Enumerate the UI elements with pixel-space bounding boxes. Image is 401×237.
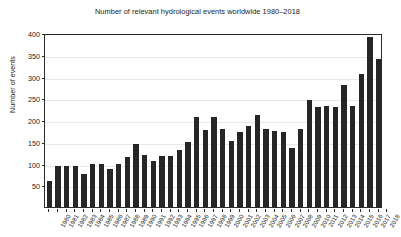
bar: [237, 132, 242, 207]
bar: [55, 166, 60, 207]
x-tick-mark: [369, 209, 370, 212]
bar: [272, 131, 277, 207]
bar: [90, 164, 95, 208]
x-tick-mark: [170, 209, 171, 212]
x-tick-mark: [256, 209, 257, 212]
x-tick-mark: [222, 209, 223, 212]
x-tick-mark: [248, 209, 249, 212]
bar: [350, 106, 355, 207]
bar: [73, 166, 78, 207]
x-tick-mark: [135, 209, 136, 212]
x-tick-mark: [187, 209, 188, 212]
bar: [246, 126, 251, 207]
x-tick-mark: [213, 209, 214, 212]
plot-area: [44, 34, 382, 208]
bar: [168, 156, 173, 207]
x-tick-mark: [100, 209, 101, 212]
x-axis-ticks: 1980198119821983198419851986198719881989…: [44, 209, 382, 237]
y-tick-label: 200: [0, 117, 40, 126]
bar: [47, 181, 52, 207]
x-tick-mark: [83, 209, 84, 212]
bar: [333, 107, 338, 207]
y-tick-label: 100: [0, 160, 40, 169]
y-tick-label: 300: [0, 73, 40, 82]
y-tick-label: 350: [0, 51, 40, 60]
bar: [324, 106, 329, 207]
bar: [220, 129, 225, 207]
bar: [116, 164, 121, 208]
bar: [376, 59, 381, 207]
bar: [211, 117, 216, 207]
x-tick-mark: [161, 209, 162, 212]
bar: [341, 85, 346, 207]
x-tick-mark: [178, 209, 179, 212]
bar: [133, 144, 138, 207]
x-tick-mark: [126, 209, 127, 212]
bar: [151, 161, 156, 207]
x-tick-mark: [308, 209, 309, 212]
bar: [64, 166, 69, 207]
bar: [194, 117, 199, 207]
y-tick-label: 50: [0, 182, 40, 191]
x-tick-mark: [118, 209, 119, 212]
bar: [203, 130, 208, 207]
x-tick-mark: [230, 209, 231, 212]
bar: [298, 129, 303, 207]
x-tick-mark: [239, 209, 240, 212]
chart-title: Number of relevant hydrological events w…: [0, 7, 395, 16]
x-tick-mark: [334, 209, 335, 212]
bar-series: [45, 35, 381, 207]
x-tick-mark: [48, 209, 49, 212]
x-tick-mark: [109, 209, 110, 212]
bar: [255, 115, 260, 207]
bar: [229, 141, 234, 207]
x-tick-mark: [317, 209, 318, 212]
x-tick-mark: [92, 209, 93, 212]
bar: [367, 37, 372, 207]
y-axis-label: Number of events: [8, 45, 17, 125]
x-tick-mark: [360, 209, 361, 212]
y-tick-label: 250: [0, 95, 40, 104]
x-tick-mark: [196, 209, 197, 212]
x-tick-mark: [352, 209, 353, 212]
bar: [107, 169, 112, 207]
x-tick-mark: [386, 209, 387, 212]
bar: [125, 157, 130, 207]
x-tick-mark: [326, 209, 327, 212]
bar: [159, 156, 164, 207]
bar: [185, 142, 190, 207]
bar: [289, 148, 294, 207]
x-tick-mark: [282, 209, 283, 212]
y-tick-label: 400: [0, 30, 40, 39]
x-tick-mark: [57, 209, 58, 212]
bar: [263, 129, 268, 207]
x-tick-mark: [152, 209, 153, 212]
bar: [359, 74, 364, 207]
x-tick-mark: [265, 209, 266, 212]
x-tick-mark: [343, 209, 344, 212]
bar: [142, 155, 147, 207]
bar: [81, 174, 86, 207]
bar: [281, 132, 286, 207]
y-tick-label: 150: [0, 138, 40, 147]
bar: [99, 164, 104, 207]
x-tick-mark: [74, 209, 75, 212]
bar: [307, 100, 312, 207]
x-tick-mark: [378, 209, 379, 212]
x-tick-mark: [300, 209, 301, 212]
x-tick-mark: [274, 209, 275, 212]
x-tick-mark: [291, 209, 292, 212]
bar: [177, 150, 182, 207]
bar: [315, 107, 320, 207]
x-tick-mark: [144, 209, 145, 212]
x-tick-mark: [204, 209, 205, 212]
x-tick-mark: [66, 209, 67, 212]
